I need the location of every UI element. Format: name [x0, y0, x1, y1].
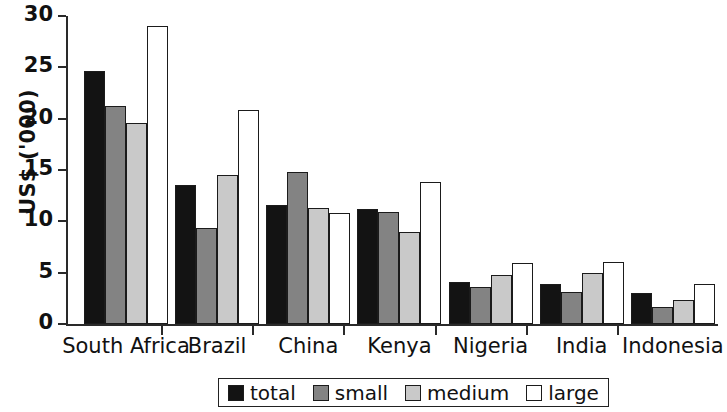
bar-india-large: [603, 262, 624, 324]
bar-china-large: [329, 213, 350, 324]
y-tick-label: 5: [38, 260, 53, 282]
bar-south-africa-medium: [126, 123, 147, 324]
bar-india-medium: [582, 273, 603, 324]
legend-swatch-total: [228, 385, 244, 401]
bar-group: [84, 16, 168, 324]
y-tick-label: 0: [38, 311, 53, 333]
bar-india-total: [540, 284, 561, 324]
legend-swatch-medium: [405, 385, 421, 401]
y-tick-label: 10: [24, 208, 53, 230]
category-label-indonesia: Indonesia: [593, 334, 727, 358]
legend-item-medium: medium: [405, 383, 509, 403]
bar-group: [540, 16, 624, 324]
bar-group: [266, 16, 350, 324]
bar-kenya-medium: [399, 232, 420, 324]
bar-kenya-total: [357, 209, 378, 324]
bar-china-small: [287, 172, 308, 324]
legend-swatch-large: [526, 385, 542, 401]
bar-south-africa-large: [147, 26, 168, 324]
y-tick-label: 20: [24, 106, 53, 128]
bar-group: [357, 16, 441, 324]
y-tick-25: 25: [58, 66, 66, 68]
bar-group: [175, 16, 259, 324]
legend-swatch-small: [313, 385, 329, 401]
bar-brazil-medium: [217, 175, 238, 324]
y-tick-30: 30: [58, 15, 66, 17]
y-tick-5: 5: [58, 272, 66, 274]
bar-china-total: [266, 205, 287, 324]
bar-group: [449, 16, 533, 324]
x-axis-line: [66, 324, 718, 326]
legend-label-small: small: [335, 383, 388, 403]
y-tick-10: 10: [58, 220, 66, 222]
bar-indonesia-medium: [673, 300, 694, 324]
bar-nigeria-large: [512, 263, 533, 324]
y-tick-15: 15: [58, 169, 66, 171]
bar-brazil-total: [175, 185, 196, 324]
bar-nigeria-small: [470, 287, 491, 324]
bar-nigeria-medium: [491, 275, 512, 324]
bar-kenya-small: [378, 212, 399, 324]
bar-chart: US$ ('000) 051015202530 South AfricaBraz…: [0, 0, 727, 412]
bar-brazil-small: [196, 228, 217, 325]
y-tick-label: 15: [24, 157, 53, 179]
legend-label-large: large: [548, 383, 599, 403]
bar-group: [631, 16, 715, 324]
bar-india-small: [561, 292, 582, 324]
bar-indonesia-total: [631, 293, 652, 324]
y-tick-0: 0: [58, 323, 66, 325]
legend-item-total: total: [228, 383, 296, 403]
bar-kenya-large: [420, 182, 441, 324]
y-tick-label: 25: [24, 54, 53, 76]
legend-item-small: small: [313, 383, 388, 403]
bar-south-africa-small: [105, 106, 126, 324]
legend-label-medium: medium: [427, 383, 509, 403]
bar-indonesia-small: [652, 307, 673, 324]
y-axis-line: [66, 16, 68, 326]
y-tick-20: 20: [58, 118, 66, 120]
legend-label-total: total: [250, 383, 296, 403]
y-tick-label: 30: [24, 3, 53, 25]
bar-indonesia-large: [694, 284, 715, 324]
bar-brazil-large: [238, 110, 259, 324]
bar-south-africa-total: [84, 71, 105, 324]
bar-china-medium: [308, 208, 329, 324]
plot-area: 051015202530: [66, 16, 718, 326]
chart-legend: totalsmallmediumlarge: [218, 378, 609, 407]
legend-item-large: large: [526, 383, 599, 403]
bar-nigeria-total: [449, 282, 470, 324]
